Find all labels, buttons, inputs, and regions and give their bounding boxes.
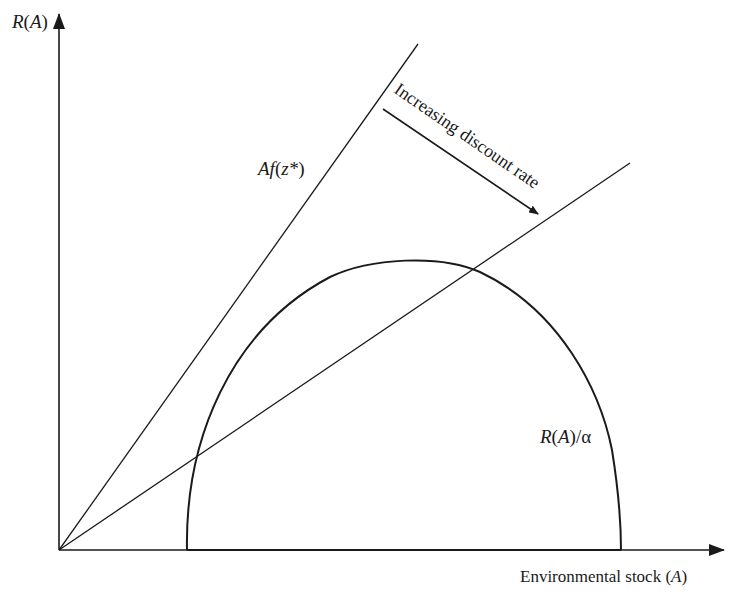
diagram: R(A) Environmental stock (A) Af(z*) R(A)… [0, 0, 740, 599]
line-af-z-star [59, 44, 418, 550]
curve-r-over-alpha [187, 260, 621, 550]
discount-rate-annotation: Increasing discount rate [391, 79, 544, 193]
y-axis-label: R(A) [11, 11, 48, 33]
line-af-z-star-label: Af(z*) [256, 158, 304, 180]
line-low-slope [59, 163, 630, 550]
x-axis-label: Environmental stock (A) [520, 567, 687, 586]
curve-label: R(A)/α [539, 426, 591, 448]
